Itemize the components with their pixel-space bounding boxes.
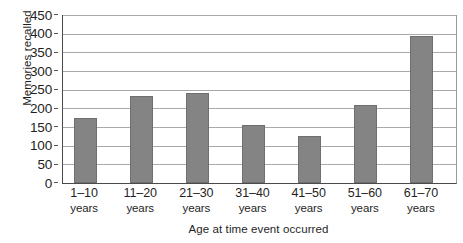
x-axis-title: Age at time event occurred [62,223,455,235]
x-tick-unit: years [166,201,226,216]
x-tick-label: 41–50years [279,186,339,216]
y-tick-label: 50 [18,158,58,172]
x-tick-range: 41–50 [279,186,339,201]
x-tick-unit: years [110,201,170,216]
y-tick-label: 150 [18,121,58,135]
y-tick-label: 300 [18,65,58,79]
y-tick-label: 450 [18,9,58,23]
y-tick-mark [54,70,58,71]
y-tick-label: 100 [18,139,58,153]
y-axis-tick-labels: 450400350300250200150100500 [18,0,58,243]
y-tick-mark [54,14,58,15]
y-tick-label: 0 [18,177,58,191]
y-tick-mark [54,164,58,165]
y-tick-value: 350 [30,45,52,60]
x-tick-label: 1–10years [54,186,114,216]
x-tick-unit: years [335,201,395,216]
x-tick-unit: years [391,201,451,216]
plot-area [62,15,457,184]
bar [298,136,321,183]
bar-series [63,15,456,183]
y-tick-mark [54,126,58,127]
y-tick-value: 300 [30,64,52,79]
x-tick-unit: years [223,201,283,216]
y-tick-mark [54,108,58,109]
x-tick-label: 31–40years [223,186,283,216]
bar [74,118,97,183]
y-tick-value: 0 [45,176,52,191]
x-tick-range: 21–30 [166,186,226,201]
x-tick-range: 61–70 [391,186,451,201]
bar [242,125,265,183]
x-tick-label: 11–20years [110,186,170,216]
x-tick-unit: years [54,201,114,216]
y-tick-mark [54,33,58,34]
x-tick-range: 1–10 [54,186,114,201]
y-tick-label: 350 [18,46,58,60]
y-tick-value: 100 [30,138,52,153]
y-tick-value: 400 [30,26,52,41]
bar [354,105,377,183]
x-tick-range: 11–20 [110,186,170,201]
y-tick-label: 250 [18,83,58,97]
bar [130,96,153,183]
y-tick-value: 200 [30,101,52,116]
x-axis-tick-labels: 1–10years11–20years21–30years31–40years4… [62,186,455,222]
bar-chart: Memories recalled 4504003503002502001501… [0,0,463,243]
y-tick-value: 450 [30,8,52,23]
y-tick-mark [54,52,58,53]
bar [186,93,209,183]
x-tick-range: 51–60 [335,186,395,201]
y-tick-label: 400 [18,27,58,41]
bar [410,36,433,183]
y-tick-value: 150 [30,120,52,135]
y-tick-value: 50 [37,157,52,172]
y-tick-mark [54,182,58,183]
y-tick-value: 250 [30,82,52,97]
x-tick-label: 51–60years [335,186,395,216]
x-tick-unit: years [279,201,339,216]
x-tick-label: 61–70years [391,186,451,216]
y-tick-mark [54,145,58,146]
y-tick-label: 200 [18,102,58,116]
x-tick-label: 21–30years [166,186,226,216]
y-tick-mark [54,89,58,90]
x-tick-range: 31–40 [223,186,283,201]
